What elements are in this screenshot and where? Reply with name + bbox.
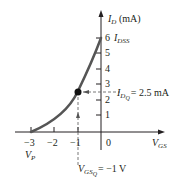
x-axis-label: VGS	[152, 137, 167, 150]
q-point-marker	[75, 89, 82, 96]
y-tick-label-4: 4	[105, 63, 110, 74]
idq-label: IDQ= 2.5 mA	[116, 87, 170, 101]
y-axis-label: ID (mA)	[107, 13, 141, 26]
x-tick-label-neg3: −3	[24, 137, 35, 148]
y-tick-label-2: 2	[105, 94, 110, 105]
y-tick-label-5: 5	[105, 47, 110, 58]
x-tick-label-neg2: −2	[47, 137, 58, 148]
transfer-characteristic-diagram: ID (mA) 6IDSS 5 4 3 2 1 IDQ= 2.5 mA −3 −…	[0, 0, 180, 187]
shockley-curve	[31, 38, 101, 132]
idss-label: 6IDSS	[105, 32, 130, 45]
vp-label: VP	[25, 149, 36, 162]
x-tick-label-0: 0	[106, 137, 111, 148]
y-tick-label-3: 3	[105, 78, 110, 89]
vgsq-label: VGSQ= −1 V	[78, 163, 127, 177]
vgsq-arrow-icon	[76, 112, 80, 118]
idq-arrow-icon	[83, 90, 89, 94]
x-tick-label-neg1: −1	[70, 137, 81, 148]
y-axis-arrow-icon	[99, 10, 104, 17]
y-tick-label-1: 1	[105, 109, 110, 120]
x-axis-arrow-icon	[158, 130, 165, 135]
